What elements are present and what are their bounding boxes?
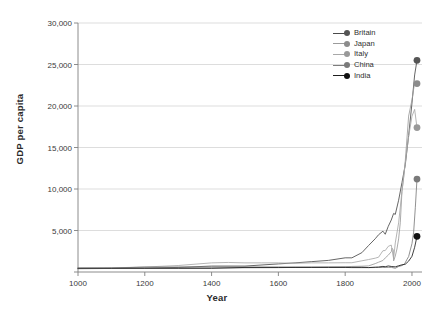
- x-tick-label-1000: 1000: [69, 279, 87, 288]
- x-axis-title: Year: [0, 292, 434, 303]
- endpoint-marker-japan: [414, 80, 421, 87]
- x-tick-label-2000: 2000: [403, 279, 421, 288]
- y-axis-title-wrapper: GDP per capita: [9, 49, 27, 209]
- legend-label: India: [354, 71, 370, 81]
- y-tick-label-20000: 20,000: [20, 102, 72, 111]
- legend-item-britain[interactable]: Britain: [333, 28, 429, 39]
- legend-label: China: [354, 60, 374, 70]
- legend-item-japan[interactable]: Japan: [333, 39, 429, 50]
- legend-swatch-britain: [333, 28, 354, 38]
- x-tick-label-1800: 1800: [336, 279, 354, 288]
- endpoint-marker-china: [414, 176, 421, 183]
- y-tick-label-15000: 15,000: [20, 143, 72, 152]
- y-tick-label-10000: 10,000: [20, 185, 72, 194]
- x-tick-label-1200: 1200: [136, 279, 154, 288]
- legend-item-italy[interactable]: Italy: [333, 49, 429, 60]
- legend-label: Japan: [354, 39, 375, 49]
- x-tick-label-1400: 1400: [203, 279, 221, 288]
- y-axis-title: GDP per capita: [14, 94, 25, 165]
- legend-dot-icon: [344, 73, 350, 79]
- series-lines: [78, 60, 417, 268]
- legend-dot-icon: [344, 30, 350, 36]
- series-line-britain: [78, 60, 417, 268]
- legend-dot-icon: [344, 41, 350, 47]
- y-tick-label-5000: 5,000: [20, 226, 72, 235]
- gdp-per-capita-line-chart: 5,00010,00015,00020,00025,00030,000 1000…: [0, 0, 434, 317]
- chart-legend: BritainJapanItalyChinaIndia: [333, 28, 429, 81]
- legend-swatch-japan: [333, 39, 354, 49]
- legend-label: Britain: [354, 28, 376, 38]
- legend-item-china[interactable]: China: [333, 60, 429, 71]
- legend-dot-icon: [344, 62, 350, 68]
- endpoint-marker-india: [414, 233, 421, 240]
- endpoint-marker-italy: [414, 124, 421, 131]
- series-line-china: [78, 179, 417, 268]
- x-tick-label-1600: 1600: [269, 279, 287, 288]
- legend-dot-icon: [344, 51, 350, 57]
- legend-swatch-italy: [333, 49, 354, 59]
- legend-swatch-india: [333, 71, 354, 81]
- legend-label: Italy: [354, 49, 368, 59]
- series-line-india: [78, 236, 417, 268]
- legend-item-india[interactable]: India: [333, 70, 429, 81]
- y-tick-label-30000: 30,000: [20, 19, 72, 28]
- legend-swatch-china: [333, 60, 354, 70]
- y-tick-label-25000: 25,000: [20, 60, 72, 69]
- series-line-japan: [78, 83, 417, 269]
